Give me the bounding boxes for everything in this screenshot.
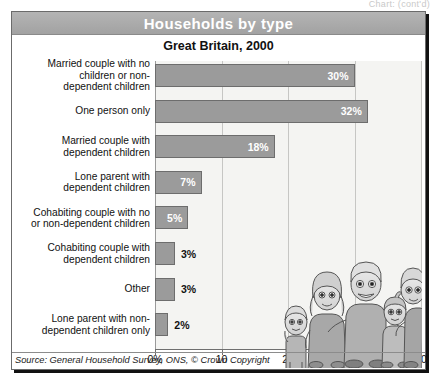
bar-value-label: 30%: [327, 70, 348, 82]
category-label: Lone parent withdependent children: [16, 171, 150, 194]
cartoon-family-illustration: [272, 250, 422, 368]
category-label: Cohabiting couple with noor non-dependen…: [16, 207, 150, 230]
bar-value-label: 3%: [181, 248, 196, 260]
bar: 32%: [155, 100, 368, 123]
bar-value-label: 2%: [174, 319, 189, 331]
category-label: Cohabiting couple withdependent children: [16, 242, 150, 265]
chart-title: Households by type: [12, 12, 425, 35]
category-label: Married couple withdependent children: [16, 135, 150, 158]
bar: [155, 313, 168, 336]
bar-value-label: 18%: [248, 141, 269, 153]
bar: 5%: [155, 206, 188, 229]
chart-subtitle: Great Britain, 2000: [12, 39, 425, 53]
category-label: Other: [16, 283, 150, 294]
bar: 18%: [155, 135, 275, 158]
bar-value-label: 3%: [181, 283, 196, 295]
category-label: Married couple with nochildren or non-de…: [16, 58, 150, 92]
category-label: One person only: [16, 105, 150, 116]
bar-value-label: 5%: [167, 212, 182, 224]
bar: 7%: [155, 171, 202, 194]
bar: [155, 278, 175, 301]
chart-title-bar: Households by type: [12, 12, 425, 35]
chart-page: Chart: (cont'd) Households by type Great…: [0, 0, 438, 383]
bar: [155, 242, 175, 265]
bar: 30%: [155, 64, 355, 87]
source-note: Source: General Household Survey, ONS, ©…: [15, 355, 270, 365]
category-label: Lone parent with non-dependent children …: [16, 313, 150, 336]
top-caption-fragment: Chart: (cont'd): [300, 0, 430, 10]
bar-value-label: 7%: [180, 176, 195, 188]
bar-value-label: 32%: [341, 105, 362, 117]
chart-card: Households by type Great Britain, 2000 M…: [11, 11, 426, 370]
source-divider: [12, 352, 425, 353]
